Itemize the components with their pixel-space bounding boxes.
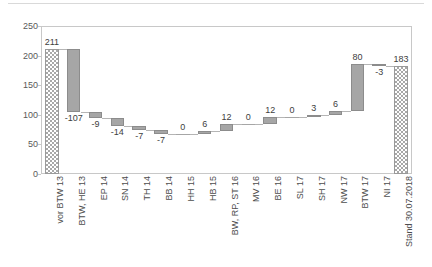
x-tick-label: SN 14 <box>121 176 130 201</box>
x-tick-label: SL 17 <box>296 176 305 199</box>
y-tick-label: 0 <box>4 170 38 179</box>
x-tick-label: Stand 30.07.2018 <box>405 176 414 247</box>
delta-bar <box>154 130 168 134</box>
delta-bar <box>67 49 81 112</box>
data-label: 6 <box>320 100 351 109</box>
connector-line <box>364 64 372 65</box>
x-tick-label: NI 17 <box>383 176 392 198</box>
x-tick-label: TH 14 <box>143 176 152 201</box>
delta-bar <box>220 124 234 131</box>
delta-bar <box>132 126 146 130</box>
connector-line <box>168 134 176 135</box>
y-tick-label: 200 <box>4 52 38 61</box>
x-tick-label: vor BTW 13 <box>56 176 65 224</box>
delta-bar <box>372 64 386 66</box>
connector-line <box>233 124 241 125</box>
connector-line <box>255 124 263 125</box>
x-tick-label: MV 16 <box>252 176 261 202</box>
connector-line <box>299 117 307 118</box>
delta-bar <box>263 117 277 124</box>
connector-line <box>146 130 154 131</box>
x-axis-labels: vor BTW 13BTW, HE 13EP 14SN 14TH 14BB 14… <box>41 174 412 267</box>
connector-line <box>81 112 89 113</box>
delta-bar <box>176 134 190 135</box>
x-tick-label: BE 16 <box>274 176 283 201</box>
chart-root: 050100150200250 211-107-9-14-7-706120120… <box>0 0 432 267</box>
delta-bar <box>242 124 256 125</box>
delta-bar <box>89 112 103 117</box>
connector-line <box>124 126 132 127</box>
connector-line <box>321 115 329 116</box>
delta-bar <box>198 131 212 135</box>
x-tick-label: NW 17 <box>340 176 349 204</box>
y-tick-label: 100 <box>4 111 38 120</box>
x-tick-label: SH 17 <box>318 176 327 201</box>
delta-bar <box>285 117 299 118</box>
data-label: 183 <box>386 55 417 64</box>
connector-line <box>190 134 198 135</box>
delta-bar <box>307 115 321 117</box>
connector-line <box>59 49 67 50</box>
total-bar <box>45 49 59 174</box>
x-tick-label: HH 15 <box>187 176 196 202</box>
x-tick-label: HB 15 <box>209 176 218 201</box>
x-tick-label: BTW, HE 13 <box>78 176 87 226</box>
data-label: -3 <box>364 68 395 77</box>
connector-line <box>386 66 394 67</box>
delta-bar <box>351 64 365 111</box>
data-label: -7 <box>146 136 177 145</box>
data-label: 80 <box>342 53 373 62</box>
top-divider <box>8 3 424 4</box>
y-axis: 050100150200250 <box>0 0 38 267</box>
total-bar <box>394 66 408 174</box>
y-tick-label: 150 <box>4 81 38 90</box>
x-tick-label: EP 14 <box>100 176 109 200</box>
x-tick-label: BB 14 <box>165 176 174 201</box>
y-tick-label: 50 <box>4 140 38 149</box>
x-tick-label: BW, RP, ST 16 <box>231 176 240 235</box>
data-label: 211 <box>37 38 68 47</box>
connector-line <box>211 131 219 132</box>
bars-layer: 211-107-9-14-7-7061201203680-3183 <box>41 26 412 174</box>
connector-line <box>102 118 110 119</box>
connector-line <box>277 117 285 118</box>
x-tick-label: BTW 17 <box>361 176 370 209</box>
connector-line <box>342 111 350 112</box>
delta-bar <box>111 118 125 126</box>
delta-bar <box>329 111 343 115</box>
y-tick-label: 250 <box>4 22 38 31</box>
